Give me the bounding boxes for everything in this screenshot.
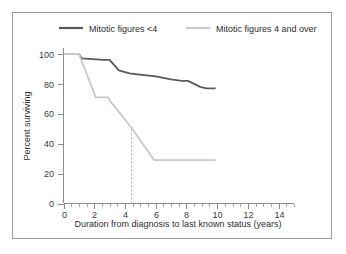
legend-entry-mitotic-4-and-over: Mitotic figures 4 and over	[186, 24, 317, 34]
figure-frame: Mitotic figures <4 Mitotic figures 4 and…	[12, 12, 332, 239]
legend-entry-mitotic-under-4: Mitotic figures <4	[59, 24, 157, 34]
chart-axes	[64, 48, 295, 204]
y-tick-label-20: 20	[44, 169, 54, 179]
y-tick-label-80: 80	[44, 80, 54, 90]
series-line-mitotic-4-and-over	[64, 54, 216, 160]
y-tick-label-60: 60	[44, 109, 54, 119]
legend-label-2: Mitotic figures 4 and over	[216, 24, 317, 34]
y-axis-title: Percent surviving	[22, 91, 32, 160]
survival-chart: Mitotic figures <4 Mitotic figures 4 and…	[13, 13, 331, 238]
y-tick-label-40: 40	[44, 139, 54, 149]
y-tick-label-0: 0	[49, 199, 54, 209]
y-axis-ticks: 020406080100	[39, 50, 64, 210]
chart-legend: Mitotic figures <4 Mitotic figures 4 and…	[59, 24, 317, 34]
chart-series-group	[64, 54, 216, 160]
x-tick-label-0: 0	[62, 210, 67, 220]
x-axis-title: Duration from diagnosis to last known st…	[74, 219, 281, 229]
legend-label-1: Mitotic figures <4	[89, 24, 157, 34]
y-tick-label-100: 100	[39, 50, 54, 60]
x-axis-ticks: 02468101214	[62, 204, 285, 221]
